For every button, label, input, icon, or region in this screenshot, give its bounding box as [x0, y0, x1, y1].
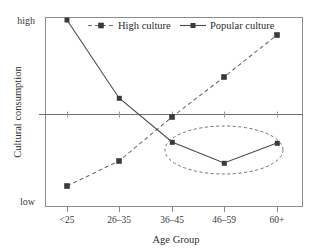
chart-page: High culture Popular culture high low Cu… [0, 0, 316, 250]
highlight-ellipse-annotation [165, 126, 283, 174]
legend-marker-square-solid-icon [191, 23, 196, 28]
legend-item-high-culture: High culture [88, 20, 171, 31]
series-line-high-culture [67, 35, 277, 186]
x-axis-label-3: 36–45 [160, 215, 184, 225]
legend-label-popular-culture: Popular culture [210, 20, 275, 31]
legend-marker-square-icon [98, 23, 104, 29]
data-point-high-culture-5 [274, 32, 280, 38]
x-axis-label-2: 26–35 [107, 215, 131, 225]
y-axis-title: Cultural consumption [12, 66, 23, 158]
data-point-popular-culture-3 [170, 140, 175, 145]
cultural-consumption-line-chart: High culture Popular culture high low Cu… [0, 0, 316, 250]
legend-item-popular-culture: Popular culture [180, 20, 275, 31]
data-point-high-culture-2 [116, 158, 122, 164]
data-point-popular-culture-2 [117, 96, 122, 101]
data-point-high-culture-1 [64, 183, 70, 189]
x-axis-label-1: <25 [60, 215, 75, 225]
data-point-high-culture-3 [169, 114, 175, 120]
x-axis-title: Age Group [153, 234, 200, 245]
data-point-popular-culture-5 [275, 141, 280, 146]
y-axis-label-low: low [20, 196, 36, 207]
data-point-popular-culture-4 [222, 161, 227, 166]
y-axis-label-high: high [17, 15, 35, 26]
x-axis-label-4: 46–59 [212, 215, 236, 225]
data-point-popular-culture-1 [65, 18, 70, 23]
legend: High culture Popular culture [88, 20, 275, 31]
legend-label-high-culture: High culture [118, 20, 171, 31]
data-point-high-culture-4 [221, 74, 227, 80]
x-axis-label-5: 60+ [270, 215, 285, 225]
